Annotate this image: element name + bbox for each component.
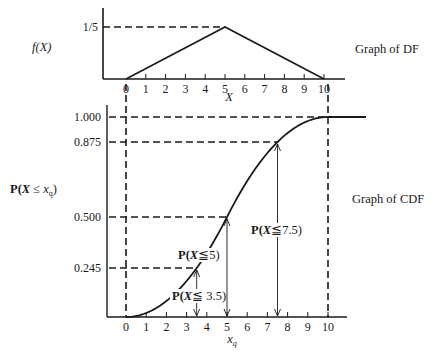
- cdf-x-tick-label: 3: [184, 320, 190, 334]
- annotation-label: P(X≦5): [178, 248, 220, 262]
- df-x-tick-label: 2: [163, 82, 169, 96]
- figure: 0123456789101/5 f(X) X Graph of DF 01234…: [0, 0, 437, 356]
- df-x-tick-label: 9: [301, 82, 307, 96]
- cdf-x-tick-label: 4: [204, 320, 210, 334]
- cdf-annotation: P(X≦7.5): [249, 144, 311, 316]
- cdf-y-label: P(X ≤ xq): [10, 182, 57, 198]
- df-x-tick-label: 4: [202, 82, 208, 96]
- cdf-x-tick-label: 9: [305, 320, 311, 334]
- df-x-label: X: [224, 90, 234, 104]
- cdf-x-tick-label: 6: [244, 320, 250, 334]
- cdf-x-tick-label: 1: [143, 320, 149, 334]
- cdf-curve: [126, 117, 366, 317]
- cdf-x-tick-label: 2: [163, 320, 169, 334]
- cdf-x-tick-label: 10: [322, 320, 334, 334]
- df-density-line: [126, 27, 324, 79]
- cdf-x-tick-label: 0: [123, 320, 129, 334]
- cdf-title: Graph of CDF: [352, 192, 424, 206]
- df-title: Graph of DF: [355, 42, 419, 56]
- cdf-x-tick-label: 8: [285, 320, 291, 334]
- cdf-x-tick-label: 7: [264, 320, 270, 334]
- df-x-tick-label: 3: [182, 82, 188, 96]
- df-x-tick-label: 1: [143, 82, 149, 96]
- df-panel: 0123456789101/5 f(X) X Graph of DF: [32, 8, 419, 104]
- df-x-tick-label: 6: [242, 82, 248, 96]
- cdf-y-tick-label: 0.875: [74, 135, 101, 149]
- df-x-tick-label: 7: [262, 82, 268, 96]
- df-x-tick-label: 8: [281, 82, 287, 96]
- df-y-tick-label: 1/5: [83, 20, 98, 34]
- df-y-label: f(X): [32, 40, 51, 54]
- cdf-y-tick-label: 0.500: [74, 210, 101, 224]
- cdf-y-tick-label: 1.000: [74, 110, 101, 124]
- annotation-label: P(X≦ 3.5): [172, 289, 226, 303]
- cdf-panel: 0123456789101.0000.8750.5000.245 P(X≦ 3.…: [10, 84, 424, 348]
- cdf-x-label: xq: [226, 332, 237, 348]
- cdf-annotation: P(X≦ 3.5): [170, 270, 226, 316]
- cdf-y-tick-label: 0.245: [74, 261, 101, 275]
- annotation-label: P(X≦7.5): [251, 223, 302, 237]
